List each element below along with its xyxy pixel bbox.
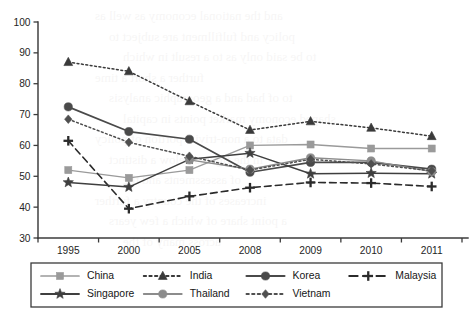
marker-circle [64, 103, 72, 111]
y-axis-tick-label: 60 [19, 140, 31, 151]
x-axis-tick-label: 2011 [421, 245, 443, 256]
y-axis-tick-label: 40 [19, 202, 31, 213]
x-axis-tick-label: 2010 [360, 245, 383, 256]
marker-plus [306, 178, 316, 188]
marker-square [57, 273, 64, 280]
marker-plus [366, 178, 376, 188]
y-axis-tick-label: 90 [19, 47, 31, 58]
x-axis-tick-label: 2000 [118, 245, 141, 256]
y-axis-tick-label: 80 [19, 78, 31, 89]
y-axis-tick-label: 50 [19, 171, 31, 182]
marker-plus [245, 183, 255, 193]
legend-label-india: India [190, 270, 213, 281]
legend-label-china: China [87, 270, 114, 281]
marker-square [307, 141, 314, 148]
marker-square [65, 167, 72, 174]
marker-circle [185, 135, 193, 143]
legend-label-singapore: Singapore [87, 288, 135, 299]
y-axis-tick-label: 100 [14, 17, 31, 28]
marker-triangle [185, 97, 194, 105]
x-axis-tick-label: 2009 [299, 245, 322, 256]
marker-diamond [125, 138, 132, 147]
chart-legend: ChinaIndiaKoreaMalaysiaSingaporeThailand… [31, 263, 442, 307]
x-axis: 1995200020052008200920102011 [38, 238, 468, 256]
legend-label-thailand: Thailand [190, 288, 230, 299]
marker-square [368, 145, 375, 152]
marker-plus [124, 204, 134, 214]
legend-label-malaysia: Malaysia [395, 270, 436, 281]
y-axis: 30405060708090100 [14, 17, 39, 244]
marker-circle [159, 290, 167, 298]
marker-star [124, 182, 134, 192]
data-series-group [63, 57, 437, 213]
marker-star [366, 168, 376, 178]
marker-diamond [65, 115, 72, 124]
marker-square [125, 174, 132, 181]
y-axis-tick-label: 70 [19, 109, 31, 120]
marker-circle [261, 272, 269, 280]
line-chart: 30405060708090100 1995200020052008200920… [0, 0, 473, 317]
marker-star [63, 177, 73, 187]
legend-label-vietnam: Vietnam [293, 288, 331, 299]
legend-label-korea: Korea [293, 270, 321, 281]
x-axis-tick-label: 2008 [239, 245, 262, 256]
marker-plus [185, 192, 195, 202]
x-axis-tick-label: 1995 [57, 245, 80, 256]
marker-star [305, 168, 315, 178]
chart-container: 30405060708090100 1995200020052008200920… [0, 0, 473, 317]
marker-plus [427, 182, 437, 192]
marker-triangle [64, 57, 73, 65]
y-axis-tick-label: 30 [19, 233, 31, 244]
marker-square [186, 167, 193, 174]
marker-triangle [306, 117, 315, 125]
marker-square [428, 145, 435, 152]
x-axis-tick-label: 2005 [178, 245, 201, 256]
marker-circle [125, 127, 133, 135]
